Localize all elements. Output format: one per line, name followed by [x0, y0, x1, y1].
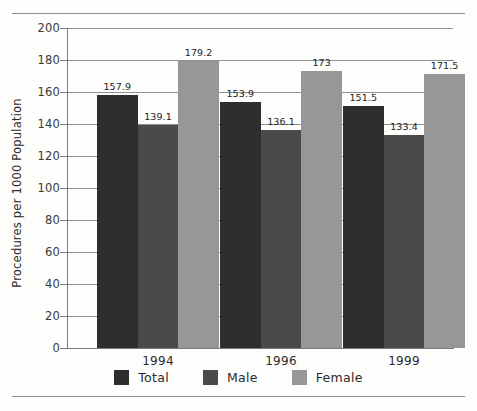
bar	[384, 135, 425, 348]
y-axis-tick-label: 60	[45, 245, 60, 259]
y-axis-tick-label: 80	[45, 213, 60, 227]
y-axis-tick-label: 0	[52, 341, 60, 355]
bar	[220, 102, 261, 348]
y-axis-tick	[60, 156, 67, 157]
bar	[301, 71, 342, 348]
y-axis-tick-label: 200	[37, 21, 60, 35]
y-axis-tick	[60, 220, 67, 221]
bar	[138, 125, 179, 348]
y-axis-tick	[60, 124, 67, 125]
bar-value-label: 139.1	[144, 111, 172, 122]
legend-item: Female	[292, 370, 363, 385]
y-axis-tick-label: 120	[37, 149, 60, 163]
bar-value-label: 179.2	[185, 47, 213, 58]
y-axis-tick	[60, 348, 67, 349]
gridline	[67, 28, 453, 29]
bar	[97, 95, 138, 348]
legend-item-label: Male	[227, 370, 258, 385]
chart-legend: TotalMaleFemale	[0, 370, 477, 385]
bar-value-label: 151.5	[349, 92, 377, 103]
y-axis-tick-label: 40	[45, 277, 60, 291]
legend-swatch-icon	[203, 370, 218, 385]
bar-value-label: 171.5	[431, 60, 459, 71]
bar	[424, 74, 465, 348]
y-axis-tick	[60, 28, 67, 29]
bar-value-label: 157.9	[103, 81, 131, 92]
legend-item: Total	[114, 370, 169, 385]
y-axis-tick-label: 140	[37, 117, 60, 131]
bar	[178, 61, 219, 348]
y-axis-line	[67, 28, 68, 349]
bottom-divider-rule	[12, 396, 465, 397]
x-axis-tick-label: 1994	[142, 354, 174, 368]
y-axis-title-text: Procedures per 1000 Population	[10, 98, 24, 288]
top-divider-rule	[12, 13, 465, 14]
legend-swatch-icon	[114, 370, 129, 385]
gridline	[67, 60, 453, 61]
y-axis-tick-label: 20	[45, 309, 60, 323]
legend-item-label: Female	[316, 370, 363, 385]
legend-item-label: Total	[138, 370, 169, 385]
y-axis-tick	[60, 92, 67, 93]
y-axis-tick	[60, 284, 67, 285]
bar	[261, 130, 302, 348]
y-axis-tick-label: 160	[37, 85, 60, 99]
chart-figure: Procedures per 1000 Population 020406080…	[0, 0, 477, 411]
bar-value-label: 173	[312, 57, 330, 68]
y-axis-title: Procedures per 1000 Population	[8, 88, 26, 298]
x-axis-line	[67, 348, 454, 349]
y-axis-tick	[60, 316, 67, 317]
y-axis-tick-labels: 020406080100120140160180200	[30, 28, 60, 349]
y-axis-tick	[60, 60, 67, 61]
y-axis-tick	[60, 252, 67, 253]
legend-swatch-icon	[292, 370, 307, 385]
x-axis-tick-label: 1996	[265, 354, 297, 368]
bar-value-label: 153.9	[226, 88, 254, 99]
y-axis-tick	[60, 188, 67, 189]
y-axis-tick-label: 100	[37, 181, 60, 195]
bar-value-label: 136.1	[267, 116, 295, 127]
bar	[343, 106, 384, 348]
legend-item: Male	[203, 370, 258, 385]
bar-value-label: 133.4	[390, 121, 418, 132]
y-axis-tick-label: 180	[37, 53, 60, 67]
x-axis-tick-label: 1999	[388, 354, 420, 368]
plot-area: 157.9139.1179.2153.9136.1173151.5133.417…	[67, 28, 453, 348]
y-axis-tick-right	[446, 348, 454, 349]
